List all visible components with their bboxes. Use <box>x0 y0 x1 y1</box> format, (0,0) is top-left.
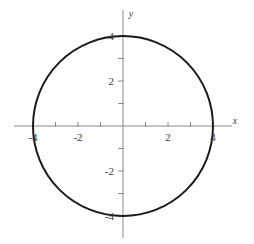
x-tick-label-4: 4 <box>210 131 216 143</box>
graph-figure: -4-224 42-2-4 x y <box>0 0 254 244</box>
x-tick-label--4: -4 <box>28 131 38 143</box>
y-tick-label-4: 4 <box>109 30 115 42</box>
y-axis-label: y <box>128 8 134 19</box>
x-axis-label: x <box>232 115 238 126</box>
x-tick-label-2: 2 <box>165 131 171 143</box>
x-tick-label--2: -2 <box>73 131 82 143</box>
coordinate-plane: -4-224 42-2-4 x y <box>0 0 254 244</box>
y-tick-label--2: -2 <box>105 165 114 177</box>
y-tick-label--4: -4 <box>105 210 115 222</box>
y-tick-label-2: 2 <box>109 75 115 87</box>
